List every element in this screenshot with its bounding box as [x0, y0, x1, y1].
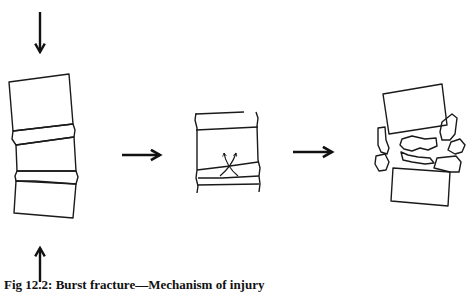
vertebra-bottom: [14, 181, 76, 218]
vertebra-middle: [16, 137, 76, 171]
vertebral-stack: [9, 74, 78, 218]
vertebra-top: [9, 74, 73, 131]
burst-fracture-vertebrae: [375, 84, 465, 206]
vertebra-disc-herniation: [195, 112, 260, 193]
bone-fragments: [375, 114, 465, 172]
crossed-arrows-icon: [220, 153, 238, 176]
vertebra-intact-lower: [391, 168, 450, 206]
figure-caption: Fig 12.2: Burst fracture—Mechanism of in…: [4, 278, 264, 292]
vertebra-intact-upper: [383, 84, 447, 134]
